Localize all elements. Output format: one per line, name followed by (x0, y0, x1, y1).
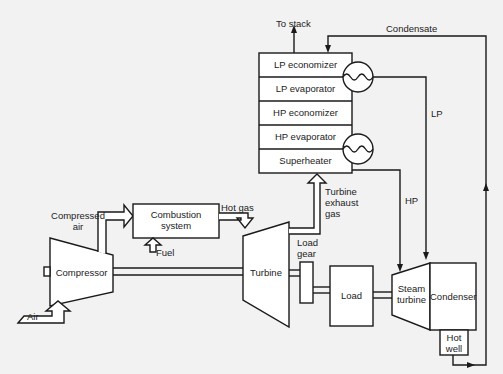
hrsg-hp-evaporator-label: HP evaporator (259, 131, 352, 142)
hp-label: HP (405, 195, 418, 206)
load-gear-label: Load gear (297, 237, 327, 259)
combined-cycle-diagram: LP economizer LP evaporator HP economize… (0, 0, 503, 374)
load-label: Load (330, 290, 373, 301)
turbine-label: Turbine (243, 267, 289, 278)
condenser-label: Condenser (430, 291, 476, 302)
load-gear-box (300, 262, 313, 303)
to-stack-label: To stack (276, 18, 311, 29)
condensate-label: Condensate (386, 23, 437, 34)
turbine-exhaust-gas-label: Turbine exhaust gas (325, 186, 365, 219)
hrsg-superheater-label: Superheater (259, 155, 352, 166)
hrsg-lp-economizer-label: LP economizer (259, 59, 352, 70)
diagram-lines (0, 0, 503, 374)
combustion-system-label: Combustion system (133, 209, 219, 231)
shaft-load-steam-turbine (373, 292, 392, 298)
to-stack-arrow (291, 25, 297, 53)
hot-well-label: Hot well (440, 332, 468, 354)
hrsg-hp-economizer-label: HP economizer (259, 107, 352, 118)
compressor-label: Compressor (50, 267, 113, 278)
compressed-air-label: Compressed air (48, 210, 108, 232)
air-inlet-arrow (18, 301, 70, 323)
fuel-label: Fuel (156, 247, 174, 258)
air-label: Air (27, 311, 39, 322)
hot-gas-duct (219, 213, 253, 228)
lp-steam-line (373, 77, 429, 260)
hrsg-lp-evaporator-label: LP evaporator (259, 83, 352, 94)
turbine-exhaust-duct (289, 174, 326, 234)
hot-gas-label: Hot gas (221, 202, 254, 213)
shaft-turbine-gear (289, 270, 300, 276)
shaft-compressor-turbine (113, 268, 243, 275)
lp-label: LP (431, 108, 443, 119)
shaft-gear-load (313, 287, 330, 293)
steam-turbine-label: Steam turbine (393, 283, 430, 305)
